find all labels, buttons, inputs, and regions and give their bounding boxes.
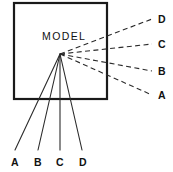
model-ray-diagram: MODEL A B C D D C B A	[0, 0, 173, 172]
input-label-a: A	[11, 156, 19, 168]
input-label-c: C	[56, 156, 64, 168]
output-label-c: C	[158, 38, 166, 50]
output-label-d: D	[158, 13, 166, 25]
input-label-b: B	[34, 156, 42, 168]
output-label-a: A	[158, 89, 166, 101]
model-box-label: MODEL	[42, 30, 86, 42]
output-label-b: B	[158, 65, 166, 77]
diagram-canvas: MODEL A B C D D C B A	[0, 0, 173, 172]
input-label-d: D	[79, 156, 87, 168]
